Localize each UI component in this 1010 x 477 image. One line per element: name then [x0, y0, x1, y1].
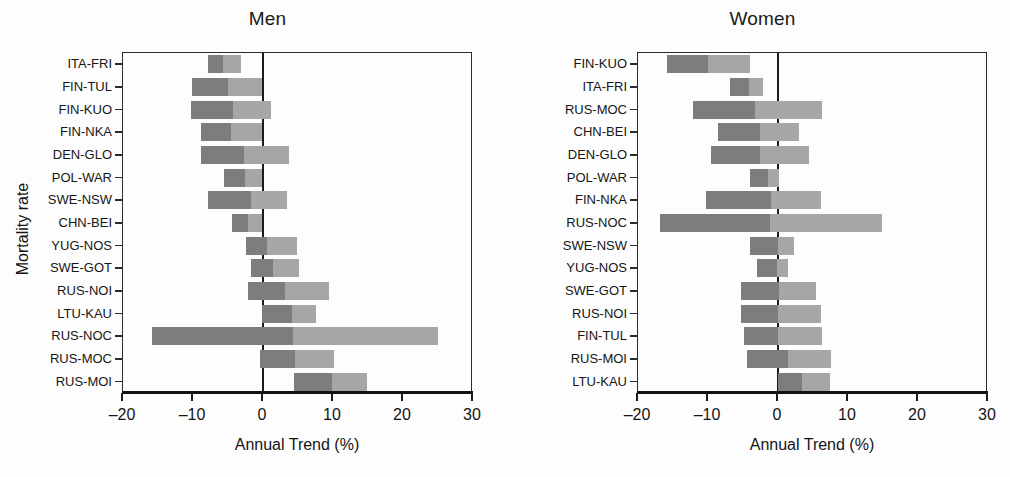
- y-axis-label-rus-noc: RUS-NOC: [566, 215, 627, 230]
- bar-segment-dark: [747, 350, 788, 368]
- x-axis-tick-label: –10: [694, 406, 721, 424]
- x-axis-tick-label: 20: [393, 406, 411, 424]
- bar-row: [750, 169, 779, 187]
- bar-segment-light: [802, 373, 830, 391]
- bar-segment-dark: [660, 214, 771, 232]
- bar-row: [750, 237, 794, 255]
- bar-segment-light: [771, 191, 821, 209]
- bar-segment-dark: [192, 78, 228, 96]
- plot-area-women: [637, 52, 987, 392]
- bar-row: [192, 78, 263, 96]
- y-axis-label-den-glo: DEN-GLO: [568, 147, 627, 162]
- y-axis-label-swe-got: SWE-GOT: [50, 260, 112, 275]
- x-axis-tick-label: 30: [463, 406, 481, 424]
- x-axis-tick-label: 0: [258, 406, 267, 424]
- panel-women: Women FIN-KUOITA-FRIRUS-MOCCHN-BEIDEN-GL…: [505, 0, 1010, 477]
- y-axis-tick: [115, 177, 122, 179]
- bar-row: [208, 191, 286, 209]
- bar-segment-dark: [201, 146, 244, 164]
- bar-segment-light: [267, 237, 296, 255]
- bar-segment-dark: [757, 259, 777, 277]
- y-axis-label-fin-nka: FIN-NKA: [575, 192, 627, 207]
- x-axis-tick: [706, 393, 708, 401]
- x-axis-tick-label: –10: [179, 406, 206, 424]
- bar-segment-light: [788, 350, 831, 368]
- y-axis-tick: [630, 109, 637, 111]
- bar-segment-dark: [750, 169, 768, 187]
- y-axis-label-rus-noi: RUS-NOI: [57, 283, 112, 298]
- bar-row: [246, 237, 296, 255]
- y-axis-label-rus-moi: RUS-MOI: [571, 351, 627, 366]
- bar-segment-dark: [208, 191, 251, 209]
- y-axis-label-pol-war: POL-WAR: [52, 169, 112, 184]
- bar-row: [201, 123, 262, 141]
- y-axis-label-ita-fri: ITA-FRI: [67, 56, 112, 71]
- y-axis-tick: [115, 63, 122, 65]
- bar-segment-light: [777, 259, 788, 277]
- bar-segment-light: [273, 259, 299, 277]
- y-axis-tick: [630, 313, 637, 315]
- bar-row: [294, 373, 367, 391]
- bar-row: [730, 78, 762, 96]
- y-axis-tick: [630, 131, 637, 133]
- bar-segment-dark: [201, 123, 232, 141]
- y-axis-label-rus-noi: RUS-NOI: [572, 305, 627, 320]
- x-axis-title-men: Annual Trend (%): [122, 436, 472, 454]
- bar-segment-dark: [718, 123, 761, 141]
- y-axis-tick: [115, 358, 122, 360]
- y-axis-tick: [630, 86, 637, 88]
- bar-segment-light: [770, 214, 882, 232]
- x-axis-tick: [331, 393, 333, 401]
- bar-row: [747, 350, 832, 368]
- bar-segment-light: [749, 78, 762, 96]
- bar-segment-dark: [260, 350, 295, 368]
- bar-row: [741, 282, 816, 300]
- x-axis-tick-label: –20: [109, 406, 136, 424]
- y-axis-tick: [115, 154, 122, 156]
- bar-row: [667, 55, 750, 73]
- x-axis-tick: [916, 393, 918, 401]
- bar-segment-light: [295, 350, 335, 368]
- bar-segment-light: [768, 169, 780, 187]
- y-axis-label-pol-war: POL-WAR: [567, 169, 627, 184]
- bar-row: [711, 146, 810, 164]
- bar-row: [693, 101, 822, 119]
- y-axis-label-rus-moi: RUS-MOI: [56, 373, 112, 388]
- bar-segment-dark: [224, 169, 245, 187]
- bar-row: [778, 373, 830, 391]
- y-axis-tick: [115, 131, 122, 133]
- y-axis-label-fin-kuo: FIN-KUO: [59, 101, 112, 116]
- y-axis-title-men: Mortality rate: [14, 164, 32, 294]
- x-axis-tick: [846, 393, 848, 401]
- y-axis-label-ltu-kau: LTU-KAU: [57, 305, 112, 320]
- bar-segment-dark: [693, 101, 755, 119]
- y-axis-tick: [630, 381, 637, 383]
- bar-segment-light: [708, 55, 750, 73]
- bar-segment-dark: [741, 305, 778, 323]
- bar-segment-light: [231, 123, 261, 141]
- bar-segment-dark: [706, 191, 771, 209]
- y-axis-label-fin-nka: FIN-NKA: [60, 124, 112, 139]
- bar-segment-dark: [232, 214, 247, 232]
- bar-segment-light: [245, 169, 263, 187]
- bar-segment-dark: [778, 373, 802, 391]
- bar-segment-light: [248, 214, 262, 232]
- bar-segment-light: [332, 373, 366, 391]
- y-axis-tick: [630, 358, 637, 360]
- bar-row: [757, 259, 789, 277]
- x-axis-tick-label: –20: [624, 406, 651, 424]
- x-axis-tick: [636, 393, 638, 401]
- y-axis-tick: [115, 245, 122, 247]
- y-axis-tick: [630, 290, 637, 292]
- bar-segment-light: [285, 282, 330, 300]
- bar-row: [718, 123, 799, 141]
- y-axis-label-swe-nsw: SWE-NSW: [48, 192, 112, 207]
- bar-segment-light: [778, 305, 821, 323]
- y-axis-label-fin-tul: FIN-TUL: [62, 79, 112, 94]
- bar-segment-light: [244, 146, 289, 164]
- y-axis-label-rus-noc: RUS-NOC: [51, 328, 112, 343]
- plot-area-men: [122, 52, 472, 392]
- y-axis-tick: [630, 245, 637, 247]
- y-axis-label-swe-nsw: SWE-NSW: [563, 237, 627, 252]
- x-axis-tick-label: 10: [838, 406, 856, 424]
